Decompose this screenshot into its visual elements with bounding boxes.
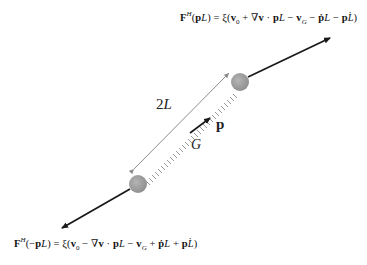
center-label: G: [191, 137, 201, 153]
force-arrow-bottom: [62, 189, 130, 228]
orientation-label: p: [216, 116, 224, 133]
orientation-arrow: [190, 118, 210, 133]
equation-bottom: FH(−pL) = ξ(v0 − ∇v · pL − vG + ṗL + pL̇…: [14, 236, 197, 252]
length-arrow: [134, 73, 229, 169]
dumbbell-diagram: [0, 0, 367, 265]
length-label: 2L: [156, 96, 172, 113]
bead-top: [231, 73, 249, 91]
force-arrow-top: [248, 38, 330, 77]
equation-top: FH(pL) = ξ(v0 + ∇v · pL − vG − ṗL − pL̇): [180, 10, 357, 26]
bead-bottom: [129, 175, 147, 193]
